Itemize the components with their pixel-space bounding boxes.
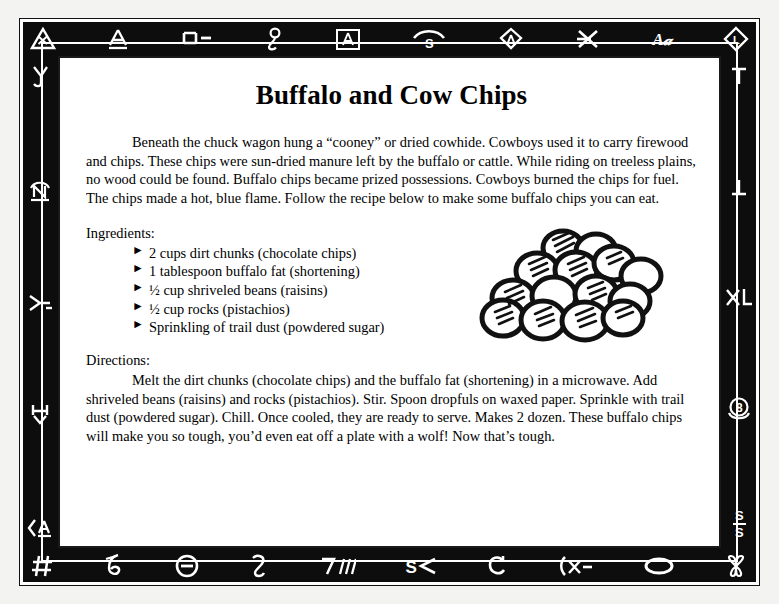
list-item: ► ½ cup shriveled beans (raisins) [132,281,552,300]
recipe-document: Buffalo and Cow Chips Beneath the chuck … [60,58,721,548]
brand-circle-dash-icon [173,552,201,580]
ingredient-text: Sprinkling of trail dust (powdered sugar… [149,319,384,335]
ingredients-section: Ingredients: ► 2 cups dirt chunks (choco… [86,224,697,337]
brand-boxed-a-icon [336,29,360,50]
brand-rafter-s-icon: S [411,27,447,51]
svg-text:S: S [425,36,434,51]
ingredient-text: ½ cup shriveled beans (raisins) [149,282,328,298]
intro-paragraph: Beneath the chuck wagon hung a “cooney” … [86,133,697,208]
brand-s-bar-s-icon: S S [733,509,746,540]
ingredient-text: 2 cups dirt chunks (chocolate chips) [149,245,356,261]
border-bottom-brands: S [24,548,755,584]
border-left-brands [22,58,58,546]
brand-n-bar-icon [27,178,53,204]
brand-a-bar-icon [107,27,129,51]
recipe-page: S A𝒶 L [0,0,779,604]
svg-text:S: S [406,558,417,577]
brand-s-arrow-icon: S [403,554,437,578]
bullet-arrow-icon: ► [132,299,144,315]
bullet-arrow-icon: ► [132,243,144,259]
ingredients-list: ► 2 cups dirt chunks (chocolate chips) ►… [86,244,552,338]
brand-hash-icon [30,553,56,579]
brand-paren-x-dash-icon [556,553,594,579]
border-top-brands: S A𝒶 L [24,21,755,57]
border-right-brands: 8 S S [721,58,757,546]
brand-y-hook-icon [29,64,51,90]
ingredient-text: ½ cup rocks (pistachios) [149,301,290,317]
bullet-arrow-icon: ► [132,317,144,333]
brand-curl-loop-icon [265,26,285,52]
svg-text:L: L [733,34,740,46]
list-item: ► Sprinkling of trail dust (powdered sug… [132,318,552,337]
brand-t-icon [728,64,750,88]
ingredient-text: 1 tablespoon buffalo fat (shortening) [149,263,360,279]
brand-oval-icon [642,555,676,577]
directions-paragraph: Melt the dirt chunks (chocolate chips) a… [86,371,697,446]
brand-e-dash-icon [180,28,214,50]
directions-label: Directions: [86,351,697,370]
brand-lazy-t-icon [728,175,750,199]
brand-double-loop-icon [723,553,749,579]
list-item: ► ½ cup rocks (pistachios) [132,300,552,319]
brand-script-am-icon: A𝒶 [653,31,672,48]
bullet-arrow-icon: ► [132,261,144,277]
brand-c-hook-icon [485,553,509,579]
brand-circle-eight-icon: 8 [725,396,753,422]
brand-h-y-icon [28,402,52,428]
brand-crossed-x-icon [575,27,601,51]
brand-seven-slashes-icon [318,554,356,578]
list-item: ► 1 tablespoon buffalo fat (shortening) [132,262,552,281]
brand-diamond-a-icon [498,27,524,51]
brand-curl-z-icon [248,552,270,580]
brand-arrow-a-bar-icon [26,516,54,540]
brand-diamond-l-icon: L [723,26,749,52]
brand-lazy-y-icon [26,292,54,314]
brand-curl-b-icon [103,552,125,580]
directions-section: Directions: Melt the dirt chunks (chocol… [86,351,697,446]
svg-text:8: 8 [736,401,743,415]
page-title: Buffalo and Cow Chips [86,80,697,111]
brand-xl-icon [724,285,754,309]
recipe-paper: Buffalo and Cow Chips Beneath the chuck … [58,56,721,548]
bullet-arrow-icon: ► [132,280,144,296]
brand-triangle-x-icon [30,27,56,51]
list-item: ► 2 cups dirt chunks (chocolate chips) [132,244,552,263]
